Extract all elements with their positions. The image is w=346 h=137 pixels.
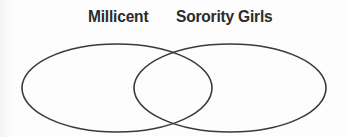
venn-ellipse-right — [134, 44, 326, 132]
venn-circles-svg — [0, 0, 346, 137]
venn-ellipse-left — [22, 44, 212, 132]
venn-diagram-figure: Millicent Sorority Girls — [0, 0, 346, 137]
